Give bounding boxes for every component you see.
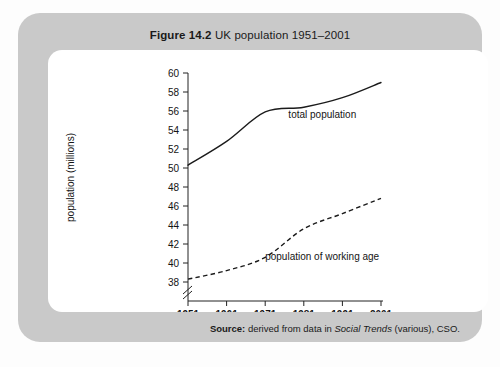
svg-text:56: 56 (168, 106, 180, 117)
series-line-total-population (188, 83, 381, 166)
series-label-total-population: total population (288, 109, 356, 120)
svg-text:50: 50 (168, 163, 180, 174)
figure-title-text: UK population 1951–2001 (215, 29, 350, 41)
figure-number: Figure 14.2 (150, 29, 212, 41)
series-line-population-of-working-age (188, 198, 381, 279)
svg-text:1951: 1951 (177, 309, 200, 312)
svg-text:38: 38 (168, 277, 180, 288)
svg-text:1991: 1991 (331, 309, 354, 312)
svg-text:48: 48 (168, 182, 180, 193)
svg-text:2001: 2001 (370, 309, 393, 312)
figure-title: Figure 14.2 UK population 1951–2001 (18, 29, 482, 41)
population-line-chart: 384042444648505254565860 195119611971198… (48, 50, 488, 312)
svg-text:1961: 1961 (215, 309, 238, 312)
svg-text:54: 54 (168, 125, 180, 136)
plot-panel: 384042444648505254565860 195119611971198… (48, 50, 488, 312)
source-title-italic: Social Trends (335, 323, 392, 334)
source-note: Source: derived from data in Social Tren… (210, 323, 460, 334)
source-text-before: derived from data in (245, 323, 334, 334)
figure-frame: Figure 14.2 UK population 1951–2001 3840… (18, 13, 482, 342)
source-text-after: (various), CSO. (392, 323, 460, 334)
svg-text:40: 40 (168, 258, 180, 269)
figure-page: Figure 14.2 UK population 1951–2001 3840… (0, 0, 500, 367)
svg-text:58: 58 (168, 87, 180, 98)
y-axis-title: population (millions) (65, 133, 76, 222)
svg-text:42: 42 (168, 239, 180, 250)
svg-text:46: 46 (168, 201, 180, 212)
x-axis-ticks: 195119611971198119912001 (177, 301, 393, 312)
source-label: Source: (210, 323, 245, 334)
series-label-population-of-working-age: population of working age (265, 251, 379, 262)
svg-text:1971: 1971 (254, 309, 277, 312)
y-axis-ticks: 384042444648505254565860 (168, 68, 188, 288)
svg-text:1981: 1981 (293, 309, 316, 312)
svg-text:44: 44 (168, 220, 180, 231)
svg-text:52: 52 (168, 144, 180, 155)
svg-text:60: 60 (168, 68, 180, 79)
